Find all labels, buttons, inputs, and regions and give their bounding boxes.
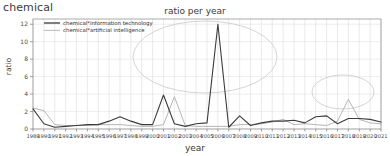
svg-text:10: 10 xyxy=(20,38,28,45)
y-axis-ticks: 024681012 xyxy=(20,20,33,132)
svg-text:2021: 2021 xyxy=(374,133,387,139)
svg-text:0: 0 xyxy=(24,125,28,132)
line-chart-plot: 024681012 198919901991199219931994199519… xyxy=(0,0,390,156)
legend: chemical*information technologychemical*… xyxy=(44,20,153,34)
svg-text:4: 4 xyxy=(24,90,28,97)
svg-text:2: 2 xyxy=(24,108,28,115)
svg-text:6: 6 xyxy=(24,73,28,80)
svg-text:chemical*artificial intelligen: chemical*artificial intelligence xyxy=(63,27,145,34)
svg-text:8: 8 xyxy=(24,55,28,62)
svg-text:chemical*information technolog: chemical*information technology xyxy=(63,20,153,27)
x-axis-ticks: 1989199019911992199319941995199619971998… xyxy=(26,129,387,139)
annotation-ellipses xyxy=(133,21,374,109)
svg-text:12: 12 xyxy=(20,20,28,27)
chart-screenshot: chemical ratio per year ratio year 02468… xyxy=(0,0,390,156)
grid-layer xyxy=(33,19,381,129)
